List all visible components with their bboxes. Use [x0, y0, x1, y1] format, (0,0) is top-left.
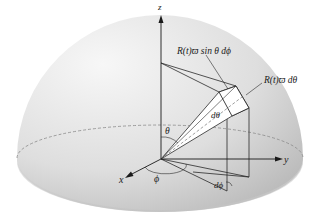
dtheta-label: dθ — [211, 110, 221, 120]
annotation-rsin-dphi: R(t)ϖ sin θ dϕ — [176, 46, 231, 57]
z-axis-label: z — [157, 2, 162, 12]
phi-label: ϕ — [154, 173, 159, 184]
y-axis-label: y — [283, 154, 289, 165]
x-axis-label: x — [118, 174, 124, 185]
theta-label: θ — [165, 126, 170, 136]
hemisphere — [17, 15, 303, 212]
spherical-solid-angle-diagram: z y x R(t)ϖ sin θ dϕ R(t)ϖ dθ dθ θ ϕ dϕ — [0, 0, 317, 219]
annotation-r-dtheta: R(t)ϖ dθ — [263, 75, 298, 86]
dphi-label: dϕ — [214, 180, 224, 190]
